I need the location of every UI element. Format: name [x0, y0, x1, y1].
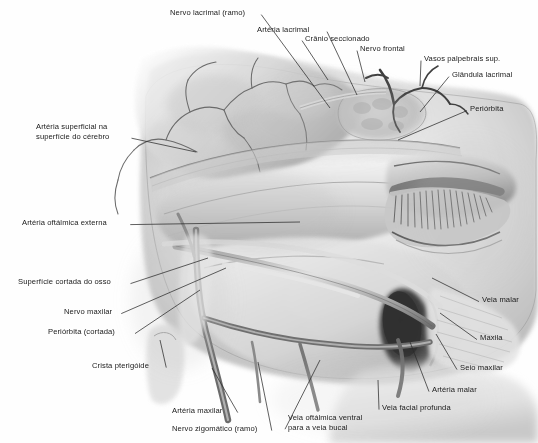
label-periorbita: Periórbita [470, 104, 504, 114]
label-crista-pterigoide: Crista pterigóide [92, 361, 149, 371]
label-veia-malar: Veia malar [482, 295, 519, 305]
label-veia-oftalmica-ventral: Veia oftálmica ventral para a veia bucal [288, 413, 362, 432]
label-arteria-oftalmica-ext: Artéria oftálmica externa [22, 218, 107, 228]
label-nervo-frontal: Nervo frontal [360, 44, 405, 54]
label-vasos-palpebrais-sup: Vasos palpebrais sup. [424, 54, 500, 64]
label-superficie-cortada: Superfície cortada do osso [18, 277, 111, 287]
label-periorbita-cortada: Periórbita (cortada) [48, 327, 115, 337]
label-arteria-maxilar: Artéria maxilar [172, 406, 222, 416]
label-nervo-zigomatico-ramo: Nervo zigomático (ramo) [172, 424, 257, 434]
label-cranio-seccionado: Crânio seccionado [305, 34, 370, 44]
label-arteria-malar: Artéria malar [432, 385, 477, 395]
label-nervo-maxilar: Nervo maxilar [64, 307, 112, 317]
label-arteria-lacrimal: Artéria lacrimal [257, 25, 309, 35]
label-veia-facial-profunda: Veia facial profunda [382, 403, 451, 413]
label-nervo-lacrimal-ramo: Nervo lacrimal (ramo) [170, 8, 245, 18]
label-arteria-superficial: Artéria superficial na superfície do cér… [36, 122, 109, 141]
label-seio-maxilar: Seio maxilar [460, 363, 503, 373]
anatomical-figure: Nervo lacrimal (ramo)Artéria lacrimalCrâ… [0, 0, 538, 443]
label-glandula-lacrimal: Glândula lacrimal [452, 70, 512, 80]
label-maxila: Maxila [480, 333, 503, 343]
